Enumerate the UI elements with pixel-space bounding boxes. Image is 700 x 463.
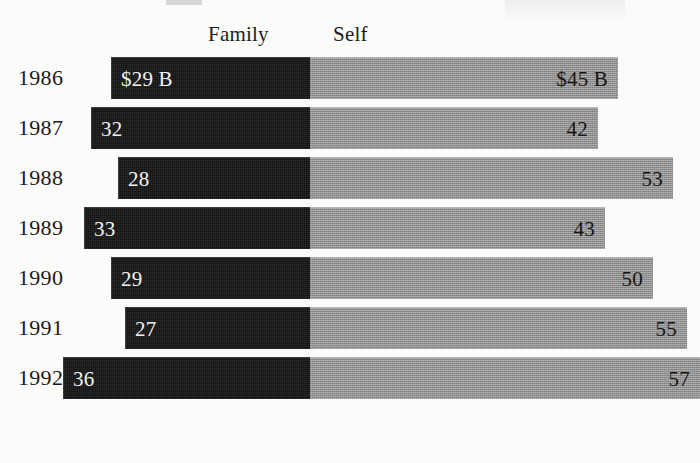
bar-group: 2755 xyxy=(0,307,654,349)
chart-row: 19873242 xyxy=(0,107,654,149)
bar-segment-family: 32 xyxy=(91,107,310,149)
chart-legend: Family Self xyxy=(0,22,654,52)
bar-value-self: 57 xyxy=(669,366,690,391)
bar-value-self: 53 xyxy=(642,166,663,191)
bar-group: 3343 xyxy=(0,207,654,249)
bar-value-self: 42 xyxy=(567,116,588,141)
bar-value-family: 36 xyxy=(73,366,94,391)
bar-segment-self: 42 xyxy=(310,107,598,149)
bar-segment-self: $45 B xyxy=(310,57,618,99)
bar-value-family: 29 xyxy=(121,266,142,291)
bar-segment-self: 50 xyxy=(310,257,653,299)
bar-group: 2853 xyxy=(0,157,654,199)
bar-group: 3657 xyxy=(0,357,654,399)
bar-value-family: 32 xyxy=(101,116,122,141)
bar-segment-family: $29 B xyxy=(111,57,310,99)
bar-group: $29 B$45 B xyxy=(0,57,654,99)
chart-row: 19882853 xyxy=(0,157,654,199)
chart-row: 1986$29 B$45 B xyxy=(0,57,654,99)
bar-value-family: 27 xyxy=(135,316,156,341)
bar-value-self: 55 xyxy=(656,316,677,341)
bar-segment-family: 28 xyxy=(118,157,310,199)
legend-label-family: Family xyxy=(208,22,269,47)
bar-value-family: $29 B xyxy=(121,66,173,91)
scan-artifact xyxy=(166,0,202,5)
legend-label-self: Self xyxy=(333,22,368,47)
chart-row: 19912755 xyxy=(0,307,654,349)
bar-segment-self: 57 xyxy=(310,357,700,399)
bar-segment-self: 43 xyxy=(310,207,605,249)
chart-rows: 1986$29 B$45 B19873242198828531989334319… xyxy=(0,57,654,407)
bar-segment-self: 53 xyxy=(310,157,673,199)
bar-value-self: 50 xyxy=(622,266,643,291)
bar-segment-family: 27 xyxy=(125,307,310,349)
chart-row: 19893343 xyxy=(0,207,654,249)
bar-value-self: $45 B xyxy=(556,66,608,91)
bar-value-self: 43 xyxy=(574,216,595,241)
bar-segment-family: 29 xyxy=(111,257,310,299)
bar-segment-family: 36 xyxy=(63,357,310,399)
bar-segment-family: 33 xyxy=(84,207,310,249)
chart-row: 19902950 xyxy=(0,257,654,299)
chart-row: 19923657 xyxy=(0,357,654,399)
bar-group: 2950 xyxy=(0,257,654,299)
bar-group: 3242 xyxy=(0,107,654,149)
bar-value-family: 33 xyxy=(94,216,115,241)
bar-value-family: 28 xyxy=(128,166,149,191)
bar-segment-self: 55 xyxy=(310,307,687,349)
